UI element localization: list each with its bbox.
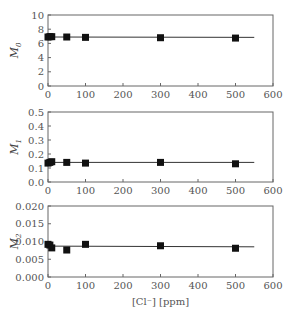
y-axis-label: M1	[8, 139, 23, 156]
x-tick-label: 200	[113, 280, 132, 291]
data-point-marker	[82, 241, 89, 248]
x-tick-label: 600	[263, 185, 282, 196]
fit-line	[48, 246, 254, 247]
x-tick-label: 300	[151, 89, 170, 100]
x-tick-label: 300	[151, 185, 170, 196]
y-axis-label: M2	[8, 233, 23, 250]
y-tick-label: 2	[38, 66, 44, 77]
data-point-marker	[232, 245, 239, 252]
data-point-marker	[157, 242, 164, 249]
data-point-marker	[48, 244, 55, 251]
y-tick-label: 0.005	[15, 254, 44, 265]
plot-frame	[48, 112, 273, 182]
y-axis-label: M0	[8, 42, 23, 59]
data-point-marker	[48, 33, 55, 40]
x-tick-label: 100	[76, 280, 95, 291]
y-tick-label: 6	[38, 38, 44, 49]
x-tick-label: 200	[113, 185, 132, 196]
y-tick-label: 0.015	[15, 218, 44, 229]
x-tick-label: 500	[226, 185, 245, 196]
x-tick-label: 0	[45, 185, 51, 196]
y-tick-label: 0.2	[28, 149, 44, 160]
x-tick-label: 100	[76, 185, 95, 196]
x-tick-label: 0	[45, 280, 51, 291]
y-tick-label: 8	[38, 24, 44, 35]
y-tick-label: 0.3	[28, 135, 44, 146]
plot-frame	[48, 15, 273, 86]
chart-figure: 02468100100200300400500600M00.00.10.20.3…	[0, 0, 288, 320]
x-tick-label: 400	[188, 185, 207, 196]
x-axis-label: [Cl⁻] [ppm]	[132, 296, 189, 307]
data-point-marker	[82, 160, 89, 167]
x-tick-label: 0	[45, 89, 51, 100]
x-tick-label: 300	[151, 280, 170, 291]
x-tick-label: 500	[226, 89, 245, 100]
x-tick-label: 400	[188, 89, 207, 100]
y-tick-label: 4	[38, 52, 44, 63]
y-tick-label: 0.020	[15, 201, 44, 212]
panel-top: 02468100100200300400500600M0	[8, 10, 283, 101]
data-point-marker	[63, 159, 70, 166]
plot-frame	[48, 206, 273, 277]
y-tick-label: 0.5	[28, 107, 44, 118]
y-tick-label: 0.4	[28, 121, 44, 132]
y-tick-label: 0.000	[15, 272, 44, 283]
data-point-marker	[232, 35, 239, 42]
panel-middle: 0.00.10.20.30.40.50100200300400500600M1	[8, 107, 283, 197]
data-point-marker	[232, 160, 239, 167]
x-tick-label: 600	[263, 89, 282, 100]
data-point-marker	[48, 158, 55, 165]
x-tick-label: 400	[188, 280, 207, 291]
y-tick-label: 0.0	[28, 177, 44, 188]
panel-bottom: 0.0000.0050.0100.0150.020010020030040050…	[8, 201, 283, 308]
y-tick-label: 10	[31, 10, 44, 21]
data-point-marker	[63, 34, 70, 41]
y-tick-label: 0	[38, 81, 44, 92]
x-tick-label: 100	[76, 89, 95, 100]
x-tick-label: 500	[226, 280, 245, 291]
x-tick-label: 200	[113, 89, 132, 100]
data-point-marker	[157, 159, 164, 166]
data-point-marker	[82, 34, 89, 41]
data-point-marker	[157, 34, 164, 41]
x-tick-label: 600	[263, 280, 282, 291]
y-tick-label: 0.1	[28, 163, 44, 174]
data-point-marker	[63, 247, 70, 254]
